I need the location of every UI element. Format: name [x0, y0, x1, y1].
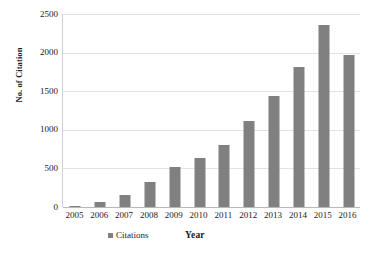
bar-2005[interactable] [70, 206, 81, 207]
bars-layer [63, 14, 360, 207]
x-tick-label: 2009 [161, 209, 186, 221]
bar-2012[interactable] [244, 121, 255, 207]
legend-label-citations: Citations [116, 230, 149, 241]
legend-swatch-citations [108, 233, 113, 238]
bar-slot [311, 14, 336, 207]
bar-2006[interactable] [95, 202, 106, 207]
citations-bar-chart: No. of Citation 05001000150020002500 200… [0, 0, 375, 254]
y-tick-label: 500 [26, 164, 58, 173]
x-tick-label: 2014 [286, 209, 311, 221]
bar-slot [262, 14, 287, 207]
plot-area [62, 14, 360, 207]
x-axis-tick-labels: 2005200620072008200920102011201220132014… [62, 209, 360, 223]
gridline-0 [63, 207, 360, 208]
bar-slot [212, 14, 237, 207]
legend: Citations [108, 230, 149, 241]
y-axis-tick-labels: 05001000150020002500 [26, 14, 58, 207]
bar-2008[interactable] [144, 182, 155, 207]
x-axis-title: Year [185, 230, 205, 241]
x-tick-label: 2007 [112, 209, 137, 221]
bar-2011[interactable] [219, 145, 230, 207]
y-axis-title: No. of Citation [12, 15, 26, 135]
bar-2009[interactable] [169, 167, 180, 207]
x-tick-label: 2011 [211, 209, 236, 221]
y-tick-label: 1500 [26, 87, 58, 96]
x-tick-label: 2005 [62, 209, 87, 221]
bar-slot [336, 14, 361, 207]
y-tick-label: 2500 [26, 10, 58, 19]
bar-2016[interactable] [343, 55, 354, 207]
y-tick-label: 1000 [26, 125, 58, 134]
x-tick-label: 2013 [261, 209, 286, 221]
bar-slot [113, 14, 138, 207]
bar-slot [63, 14, 88, 207]
bar-2010[interactable] [194, 158, 205, 207]
x-tick-label: 2010 [186, 209, 211, 221]
bar-slot [88, 14, 113, 207]
bar-slot [187, 14, 212, 207]
y-tick-label: 2000 [26, 48, 58, 57]
bar-slot [237, 14, 262, 207]
x-tick-label: 2012 [236, 209, 261, 221]
bar-slot [138, 14, 163, 207]
y-tick-label: 0 [26, 203, 58, 212]
bar-2013[interactable] [269, 96, 280, 207]
x-tick-label: 2016 [335, 209, 360, 221]
x-tick-label: 2015 [310, 209, 335, 221]
x-tick-label: 2008 [137, 209, 162, 221]
bar-slot [162, 14, 187, 207]
bar-slot [287, 14, 312, 207]
bar-2014[interactable] [293, 67, 304, 207]
bar-2015[interactable] [318, 25, 329, 207]
bar-2007[interactable] [120, 195, 131, 207]
x-tick-label: 2006 [87, 209, 112, 221]
